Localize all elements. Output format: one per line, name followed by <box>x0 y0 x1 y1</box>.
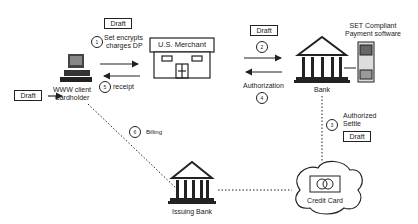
step-1-line2: charges DP <box>104 42 143 50</box>
billing-link <box>88 104 178 190</box>
draft-box-step1: Draft <box>104 18 132 29</box>
step-3-line2: Settle <box>343 120 376 128</box>
server-icon <box>358 42 374 82</box>
draft-box-step3: Draft <box>343 131 371 142</box>
bank-icon <box>294 37 350 83</box>
issuing-bank-icon <box>168 162 216 204</box>
draft-box-cardholder: Draft <box>14 90 42 101</box>
step-4-marker: 4 <box>256 92 268 104</box>
payment-software-line1: SET Compliant <box>338 22 408 30</box>
cardholder-label: WWW client Cardholder <box>50 86 94 102</box>
step-5-label: receipt <box>113 83 134 91</box>
draft-box-step2: Draft <box>250 25 278 36</box>
step-1-marker: 1 <box>91 36 103 48</box>
step-1-label: Set encrypts charges DP <box>104 34 143 50</box>
step-1-line1: Set encrypts <box>104 34 143 42</box>
bank-label: Bank <box>306 86 338 94</box>
step-2-marker: 2 <box>256 41 268 53</box>
cardholder-label-line1: WWW client <box>50 86 94 94</box>
step-3-label: Authorized Settle <box>343 112 376 128</box>
step-3-line1: Authorized <box>343 112 376 120</box>
cardholder-label-line2: Cardholder <box>50 94 94 102</box>
step-6-label: Billing <box>146 128 162 136</box>
step-6-marker: 6 <box>129 126 141 138</box>
cloud-icon <box>296 161 362 214</box>
payment-software-label: SET Compliant Payment software <box>338 22 408 38</box>
step-3-marker: 3 <box>326 119 338 131</box>
payment-software-line2: Payment software <box>338 30 408 38</box>
credit-card-label: Credit Card <box>300 197 350 205</box>
step-5-marker: 5 <box>99 81 111 93</box>
set-payment-diagram: Draft Draft Draft Draft WWW client Cardh… <box>0 0 418 224</box>
computer-icon <box>60 54 92 82</box>
merchant-label: U.S. Merchant <box>150 41 214 49</box>
step-4-label: Authorization <box>243 82 284 90</box>
issuing-bank-label: Issuing Bank <box>166 208 218 216</box>
